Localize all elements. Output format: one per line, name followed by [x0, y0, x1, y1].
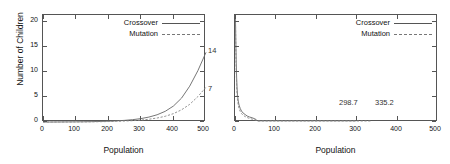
- annotation-crossover-endpoint: 14: [208, 46, 216, 55]
- ytick-10: [43, 71, 47, 72]
- ytick-10-right: [200, 71, 204, 72]
- legend-entry-mutation-right: Mutation: [320, 29, 432, 40]
- ytick-5: [43, 96, 47, 97]
- ytick-15: [43, 46, 47, 47]
- ytick-5-right: [200, 96, 204, 97]
- xtick-300: [140, 116, 141, 120]
- xtick-r-label-300: 300: [345, 125, 365, 133]
- ytick-r-10-right: [432, 71, 436, 72]
- xtick-0-top: [43, 15, 44, 19]
- x-axis-title-left: Population: [42, 145, 205, 155]
- ytick-20-right: [200, 21, 204, 22]
- chart-panel-left: Crossover Mutation 0 5 10 15 20 0 100 20…: [0, 0, 225, 164]
- xtick-r-100: [275, 116, 276, 120]
- ytick-r-0-right: [432, 121, 436, 122]
- xtick-r-300: [356, 116, 357, 120]
- xtick-r-0-top: [235, 15, 236, 19]
- legend-key-crossover: [162, 23, 200, 24]
- xtick-r-label-0: 0: [224, 125, 244, 133]
- legend-key-crossover-right: [394, 23, 432, 24]
- xtick-500-top: [204, 15, 205, 19]
- ytick-r-20: [235, 21, 239, 22]
- ytick-r-20-right: [432, 21, 436, 22]
- xtick-r-400: [397, 116, 398, 120]
- legend-key-mutation: [162, 34, 200, 35]
- legend-entry-crossover-right: Crossover: [320, 18, 432, 29]
- xtick-label-0: 0: [32, 125, 52, 133]
- xtick-label-500: 500: [193, 125, 213, 133]
- ytick-20: [43, 21, 47, 22]
- y-axis-title-left: Number of Children: [15, 4, 25, 94]
- xtick-r-500: [436, 116, 437, 120]
- xtick-r-0: [235, 116, 236, 120]
- legend-label-crossover: Crossover: [124, 18, 158, 27]
- legend-right: Crossover Mutation: [320, 18, 432, 40]
- legend-key-mutation-right: [394, 34, 432, 35]
- ytick-15-right: [200, 46, 204, 47]
- plot-area-right: Crossover Mutation 298.7 335.2: [234, 14, 437, 121]
- ytick-r-10: [235, 71, 239, 72]
- legend-left: Crossover Mutation: [88, 18, 200, 40]
- legend-label-crossover-right: Crossover: [356, 18, 390, 27]
- ytick-r-5: [235, 96, 239, 97]
- xtick-100-top: [75, 15, 76, 19]
- xtick-400: [173, 116, 174, 120]
- xtick-r-200-top: [316, 15, 317, 19]
- xtick-label-300: 300: [129, 125, 149, 133]
- xtick-500: [204, 116, 205, 120]
- xtick-label-200: 200: [97, 125, 117, 133]
- xtick-r-label-400: 400: [386, 125, 406, 133]
- xtick-label-100: 100: [64, 125, 84, 133]
- ytick-0: [43, 121, 47, 122]
- plot-area-left: Crossover Mutation: [42, 14, 205, 121]
- x-axis-title-right: Population: [234, 145, 437, 155]
- xtick-r-label-500: 500: [425, 125, 445, 133]
- chart-panel-right: Crossover Mutation 298.7 335.2 0 100 200…: [225, 0, 450, 164]
- xtick-r-500-top: [436, 15, 437, 19]
- annotation-mutation-end-right: 335.2: [375, 98, 394, 107]
- legend-label-mutation-right: Mutation: [361, 29, 390, 38]
- xtick-0: [43, 116, 44, 120]
- legend-entry-mutation: Mutation: [88, 29, 200, 40]
- ytick-r-0: [235, 121, 239, 122]
- ytick-0-right: [200, 121, 204, 122]
- curve-mutation: [43, 87, 206, 122]
- annotation-crossover-end-right: 298.7: [339, 98, 358, 107]
- ytick-label-0: 0: [16, 116, 38, 124]
- curve-crossover: [43, 52, 206, 122]
- ytick-r-15-right: [432, 46, 436, 47]
- xtick-r-100-top: [275, 15, 276, 19]
- xtick-label-400: 400: [162, 125, 182, 133]
- xtick-r-label-200: 200: [305, 125, 325, 133]
- ytick-r-15: [235, 46, 239, 47]
- xtick-r-label-100: 100: [264, 125, 284, 133]
- xtick-100: [75, 116, 76, 120]
- ytick-r-5-right: [432, 96, 436, 97]
- xtick-200: [108, 116, 109, 120]
- annotation-mutation-endpoint: 7: [208, 84, 212, 93]
- xtick-r-200: [316, 116, 317, 120]
- figure-two-panel-chart: Crossover Mutation 0 5 10 15 20 0 100 20…: [0, 0, 450, 164]
- legend-entry-crossover: Crossover: [88, 18, 200, 29]
- legend-label-mutation: Mutation: [129, 29, 158, 38]
